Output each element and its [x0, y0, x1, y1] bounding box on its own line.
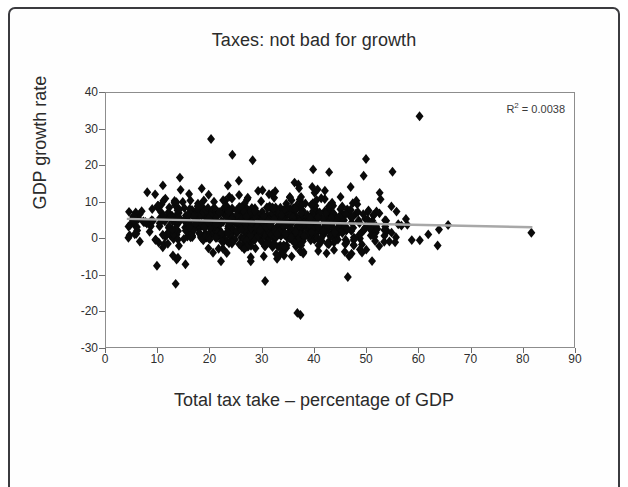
scatter-point: [377, 194, 385, 204]
scatter-point: [172, 279, 180, 289]
scatter-point: [228, 150, 236, 160]
scatter-point: [323, 248, 331, 258]
scatter-point: [257, 196, 265, 206]
y-axis-tick-mark: [99, 275, 105, 276]
scatter-point: [136, 237, 144, 247]
y-axis-tick-label: 40: [52, 85, 98, 99]
x-axis-tick-label: 40: [294, 352, 334, 366]
x-axis-tick-label: 20: [189, 352, 229, 366]
scatter-point: [176, 173, 184, 183]
x-axis-tick-mark: [418, 348, 419, 353]
scatter-point: [416, 235, 424, 245]
scatter-point: [389, 167, 397, 177]
r-squared-annotation: R2 = 0.0038: [506, 101, 565, 115]
x-axis-tick-mark: [209, 348, 210, 353]
y-axis-tick-mark: [99, 238, 105, 239]
scatter-point: [217, 256, 225, 266]
y-axis-tick-label: 0: [52, 231, 98, 245]
x-axis-tick-label: 30: [242, 352, 282, 366]
y-axis-tick-mark: [99, 129, 105, 130]
scatter-point: [408, 235, 416, 245]
y-axis-tick-label: 10: [52, 195, 98, 209]
scatter-point: [309, 164, 317, 174]
scatter-point: [198, 184, 206, 194]
scatter-point: [181, 259, 189, 269]
x-axis-tick-mark: [471, 348, 472, 353]
scatter-point: [314, 246, 322, 256]
scatter-point: [159, 180, 167, 190]
scatter-point: [261, 276, 269, 286]
y-axis-tick-label: -20: [52, 304, 98, 318]
x-axis-tick-mark: [105, 348, 106, 353]
scatter-point: [207, 134, 215, 144]
y-axis-tick-labels: 403020100-10-20-30: [50, 92, 98, 348]
scatter-point: [344, 272, 352, 282]
x-axis-tick-mark: [523, 348, 524, 353]
y-axis-tick-mark: [99, 92, 105, 93]
x-axis-title: Total tax take – percentage of GDP: [0, 390, 628, 411]
x-axis-tick-mark: [157, 348, 158, 353]
scatter-point: [527, 228, 535, 238]
x-axis-tick-label: 70: [451, 352, 491, 366]
x-axis-tick-label: 80: [503, 352, 543, 366]
x-axis-tick-label: 0: [85, 352, 125, 366]
y-axis-tick-mark: [99, 165, 105, 166]
scatter-point: [434, 240, 442, 250]
r-squared-value: = 0.0038: [519, 103, 565, 115]
scatter-point: [321, 186, 329, 196]
x-axis-tick-label: 60: [398, 352, 438, 366]
scatter-point: [143, 187, 151, 197]
scatter-point: [368, 256, 376, 266]
y-axis-tick-label: -10: [52, 268, 98, 282]
y-axis-tick-label: 20: [52, 158, 98, 172]
scatter-point: [151, 189, 159, 199]
y-axis-tick-mark: [99, 202, 105, 203]
scatter-point: [360, 171, 368, 181]
x-axis-tick-mark: [314, 348, 315, 353]
scatter-point: [235, 176, 243, 186]
scatter-point: [235, 190, 243, 200]
scatter-point: [177, 185, 185, 195]
scatter-point: [288, 251, 296, 261]
scatter-point: [153, 261, 161, 271]
x-axis-tick-labels: 0102030405060708090: [105, 352, 575, 372]
scatter-point: [249, 155, 257, 165]
chart-title: Taxes: not bad for growth: [0, 30, 628, 51]
plot-area: R2 = 0.0038: [105, 92, 575, 348]
scatter-point: [337, 192, 345, 202]
x-axis-tick-label: 50: [346, 352, 386, 366]
y-axis-title: GDP growth rate: [30, 23, 51, 263]
scatter-point: [424, 229, 432, 239]
scatter-point: [260, 251, 268, 261]
scatter-point: [325, 167, 333, 177]
scatter-point: [362, 154, 370, 164]
scatter-point: [224, 181, 232, 191]
y-axis-tick-mark: [99, 311, 105, 312]
x-axis-tick-mark: [366, 348, 367, 353]
y-axis-tick-label: 30: [52, 122, 98, 136]
scatter-plot-canvas: [106, 93, 574, 347]
x-axis-tick-label: 10: [137, 352, 177, 366]
x-axis-tick-label: 90: [555, 352, 595, 366]
x-axis-tick-mark: [575, 348, 576, 353]
x-axis-tick-mark: [262, 348, 263, 353]
scatter-point: [416, 111, 424, 121]
scatter-point: [347, 182, 355, 192]
